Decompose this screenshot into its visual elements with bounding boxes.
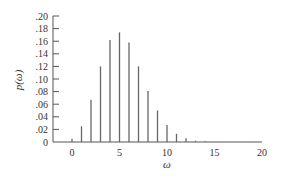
x-tick-label: 0 [70, 147, 75, 158]
y-tick-label: 0 [43, 137, 48, 148]
y-tick-label: .08 [36, 86, 49, 97]
axes: .20.18.16.14.12.10.08.06.04.02005101520 [36, 11, 268, 159]
bars [72, 32, 205, 142]
y-tick-label: .04 [36, 111, 49, 122]
y-tick-label: .02 [36, 124, 49, 135]
y-tick-label: .20 [36, 11, 49, 22]
y-tick-label: .18 [36, 23, 49, 34]
x-axis-title: ω [163, 158, 171, 170]
y-axis-title: p(ω) [12, 69, 25, 91]
y-tick-label: .06 [36, 99, 49, 110]
x-tick-label: 10 [162, 147, 172, 158]
x-tick-label: 5 [117, 147, 122, 158]
x-tick-label: 20 [257, 147, 267, 158]
y-tick-label: .16 [36, 36, 49, 47]
x-tick-label: 15 [210, 147, 220, 158]
y-tick-label: .14 [36, 48, 49, 59]
probability-stem-chart: .20.18.16.14.12.10.08.06.04.02005101520 … [0, 0, 281, 180]
y-tick-label: .10 [36, 74, 49, 85]
y-tick-label: .12 [36, 61, 49, 72]
